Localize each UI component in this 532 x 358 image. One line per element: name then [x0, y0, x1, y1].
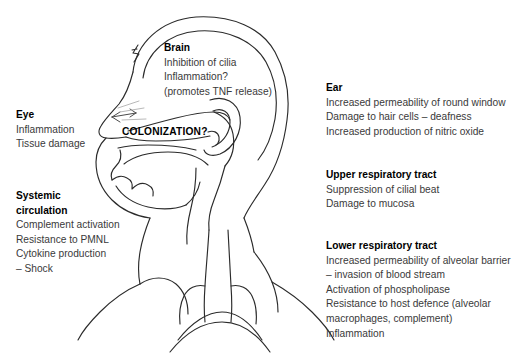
- lrt-line-1: Increased permeability of alveolar barri…: [326, 254, 511, 269]
- ear-line-2: Damage to hair cells – deafness: [326, 110, 506, 125]
- systemic-title-2: circulation: [16, 204, 120, 219]
- systemic-line-2: Resistance to PMNL: [16, 233, 120, 248]
- pharynx-path: [209, 166, 225, 230]
- ear-inner-path: [213, 110, 230, 145]
- neck-front-path: [139, 218, 151, 284]
- diagram-canvas: COLONIZATION? Brain Inhibition of cilia …: [0, 0, 532, 358]
- trachea-left-path: [204, 230, 209, 322]
- label-block-upper-respiratory-tract: Upper respiratory tract Suppression of c…: [326, 168, 439, 212]
- left-chest-path: [78, 284, 140, 340]
- eye-title: Eye: [16, 108, 85, 123]
- lrt-line-2: – invasion of blood stream: [326, 268, 511, 283]
- lrt-line-6: Inflammation: [326, 327, 511, 342]
- label-block-ear: Ear Increased permeability of round wind…: [326, 81, 506, 139]
- mandible-inner-path: [116, 186, 186, 209]
- pharynx-front-path: [187, 168, 196, 244]
- lrt-line-4: Resistance to host defence (alveolar: [326, 297, 511, 312]
- urt-line-1: Suppression of cilial beat: [326, 183, 439, 198]
- lrt-line-5: macrophages, complement): [326, 312, 511, 327]
- diaphragm-path: [178, 312, 262, 340]
- systemic-title: Systemic: [16, 189, 120, 204]
- brain-line-2: Inflammation?: [164, 70, 272, 85]
- urt-title: Upper respiratory tract: [326, 168, 439, 183]
- left-shoulder-path: [140, 278, 188, 314]
- neck-back-path: [244, 218, 254, 252]
- tongue-path: [124, 152, 208, 165]
- upper-teeth-path: [111, 150, 121, 180]
- label-block-lower-respiratory-tract: Lower respiratory tract Increased permea…: [326, 239, 511, 341]
- brain-line-1: Inhibition of cilia: [164, 56, 272, 71]
- ear-line-1: Increased permeability of round window: [326, 96, 506, 111]
- label-block-systemic-circulation: Systemic circulation Complement activati…: [16, 189, 120, 277]
- ear-outer-path: [204, 98, 240, 155]
- lightning-bolt-icon: [132, 45, 139, 62]
- right-chest-path: [272, 282, 334, 340]
- urt-line-2: Damage to mucosa: [326, 197, 439, 212]
- eye-line-1: Inflammation: [16, 123, 85, 138]
- systemic-line-4: – Shock: [16, 262, 120, 277]
- colonization-label: COLONIZATION?: [122, 126, 208, 137]
- lower-chest-arc-path: [170, 322, 270, 352]
- ear-tragus-path: [208, 131, 219, 147]
- trachea-right-path: [228, 230, 232, 322]
- right-bronchus-path: [231, 285, 256, 324]
- mouth-path: [118, 145, 196, 150]
- systemic-line-3: Cytokine production: [16, 247, 120, 262]
- lrt-line-3: Activation of phospholipase: [326, 283, 511, 298]
- brain-title: Brain: [164, 41, 272, 56]
- label-block-eye: Eye Inflammation Tissue damage: [16, 108, 85, 152]
- eye-line-2: Tissue damage: [16, 137, 85, 152]
- brain-line-3: (promotes TNF release): [164, 85, 272, 100]
- lrt-title: Lower respiratory tract: [326, 239, 511, 254]
- ear-line-3: Increased production of nitric oxide: [326, 125, 506, 140]
- systemic-line-1: Complement activation: [16, 218, 120, 233]
- right-shoulder-path: [254, 252, 278, 312]
- ear-title: Ear: [326, 81, 506, 96]
- label-block-brain: Brain Inhibition of cilia Inflammation? …: [164, 41, 272, 99]
